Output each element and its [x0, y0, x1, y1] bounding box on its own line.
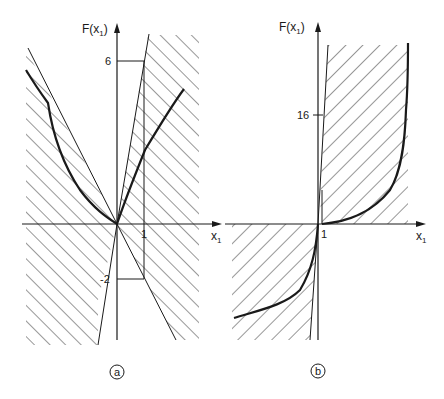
x-tick-1-b: 1: [321, 228, 327, 240]
panel-label-a: a: [114, 366, 121, 378]
x-axis-arrow-a: [212, 221, 222, 227]
y-axis-label-a: F(x1): [82, 22, 108, 38]
hatched-region-upper-b: [320, 45, 408, 224]
y-axis-label-b: F(x1): [279, 20, 305, 36]
y-axis-arrow-b: [315, 22, 321, 32]
figure-canvas: F(x1) x1 1 6 -2 a F(x1): [0, 0, 444, 399]
x-axis-arrow-b: [416, 221, 426, 227]
y-axis-arrow-a: [114, 23, 120, 33]
panel-label-b: b: [315, 365, 321, 377]
panel-b: F(x1) x1 1 16 b: [225, 20, 427, 378]
x-axis-label-a: x1: [211, 229, 222, 245]
panel-a: F(x1) x1 1 6 -2 a: [22, 22, 222, 379]
x-axis-label-b: x1: [416, 229, 427, 245]
y-tick-minus2-a: -2: [100, 273, 110, 285]
x-tick-1-a: 1: [141, 228, 147, 240]
y-tick-16-b: 16: [297, 109, 309, 121]
y-tick-6-a: 6: [105, 55, 111, 67]
